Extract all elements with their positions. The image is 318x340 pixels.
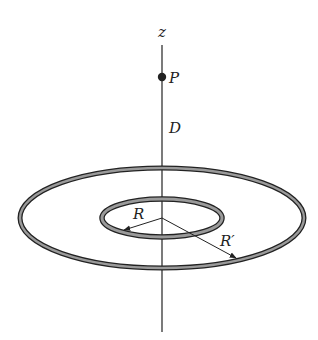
point-p-dot [158, 73, 166, 81]
z-axis-label: z [157, 23, 166, 41]
diagram-svg: z P D R R′ [0, 0, 318, 340]
inner-radius-label: R [132, 205, 144, 223]
point-p-label: P [168, 69, 180, 87]
distance-d-label: D [168, 119, 181, 137]
outer-radius-label: R′ [219, 232, 235, 250]
ring-diagram: z P D R R′ [0, 0, 318, 340]
